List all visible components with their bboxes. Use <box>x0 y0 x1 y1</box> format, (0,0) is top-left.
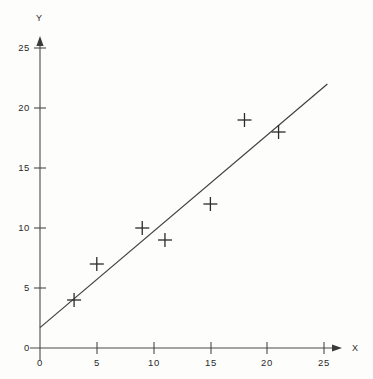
x-tick-label-5: 5 <box>87 358 107 368</box>
y-tick-label-10: 10 <box>8 223 30 233</box>
data-point-marker <box>90 257 104 271</box>
y-axis-title: Y <box>36 14 43 23</box>
y-axis-arrow-icon <box>36 36 43 46</box>
scatter-plot-figure: Y X 25 20 15 10 5 0 0 5 10 15 20 25 <box>0 0 373 379</box>
x-tick-label-15: 15 <box>201 358 221 368</box>
y-tick-label-20: 20 <box>8 103 30 113</box>
data-point-marker <box>203 197 217 211</box>
data-point-marker <box>135 221 149 235</box>
data-point-marker <box>237 113 251 127</box>
x-tick-label-25: 25 <box>314 358 334 368</box>
x-tick-label-20: 20 <box>257 358 277 368</box>
plot-canvas <box>0 0 373 379</box>
y-tick-label-5: 5 <box>8 283 30 293</box>
x-tick-label-0: 0 <box>30 358 50 368</box>
data-points-group <box>67 113 285 307</box>
data-point-marker <box>272 125 286 139</box>
y-tick-label-25: 25 <box>8 43 30 53</box>
x-axis-title: X <box>352 344 359 353</box>
trend-line <box>40 84 327 328</box>
y-tick-label-0: 0 <box>8 343 30 353</box>
y-tick-label-15: 15 <box>8 163 30 173</box>
data-point-marker <box>158 233 172 247</box>
x-tick-label-10: 10 <box>144 358 164 368</box>
axes-group <box>30 36 342 360</box>
x-axis-arrow-icon <box>332 344 342 351</box>
